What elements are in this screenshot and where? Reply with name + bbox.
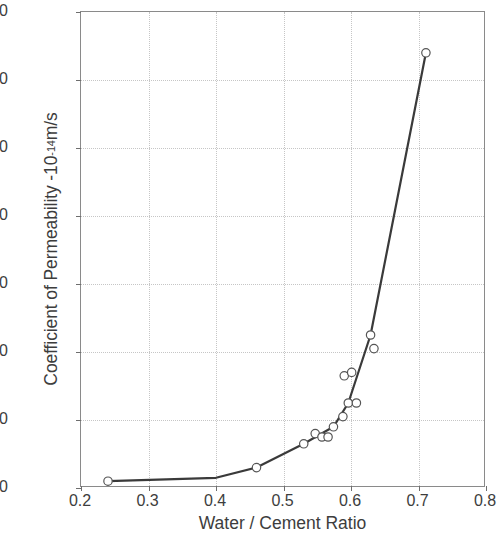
trend-line bbox=[108, 53, 426, 481]
x-tick-label: 0.4 bbox=[185, 492, 245, 510]
data-point bbox=[104, 477, 112, 485]
data-point bbox=[422, 49, 430, 57]
plot-area bbox=[80, 11, 485, 487]
permeability-vs-water-cement-ratio-chart: Coefficient of Permeability -10-14 m/s W… bbox=[0, 0, 497, 551]
x-tick-label: 0.3 bbox=[118, 492, 178, 510]
y-tick-label: 140 bbox=[0, 2, 8, 20]
data-point bbox=[366, 331, 374, 339]
x-tick-label: 0.5 bbox=[253, 492, 313, 510]
x-tick-label: 0.2 bbox=[50, 492, 110, 510]
y-axis-title-units: m/s bbox=[41, 112, 62, 140]
data-point bbox=[300, 440, 308, 448]
data-point bbox=[352, 399, 360, 407]
x-tick-label: 0.7 bbox=[388, 492, 448, 510]
y-tick-label: 60 bbox=[0, 274, 8, 292]
data-point bbox=[347, 368, 355, 376]
data-point bbox=[370, 344, 378, 352]
x-tick-label: 0.8 bbox=[455, 492, 497, 510]
data-series-layer bbox=[81, 12, 486, 488]
data-point bbox=[339, 412, 347, 420]
data-point bbox=[324, 433, 332, 441]
data-points bbox=[104, 49, 430, 486]
x-tick-mark bbox=[486, 486, 487, 491]
y-axis-title-text: Coefficient of Permeability -10 bbox=[41, 156, 62, 386]
y-tick-label: 100 bbox=[0, 138, 8, 156]
y-tick-mark bbox=[76, 488, 81, 489]
data-point bbox=[344, 399, 352, 407]
x-axis-title: Water / Cement Ratio bbox=[80, 513, 485, 534]
y-axis-title: Coefficient of Permeability -10-14 m/s bbox=[34, 11, 68, 487]
y-tick-label: 80 bbox=[0, 206, 8, 224]
y-tick-label: 40 bbox=[0, 342, 8, 360]
y-tick-label: 0 bbox=[0, 478, 8, 496]
y-tick-label: 20 bbox=[0, 410, 8, 428]
data-point bbox=[252, 463, 260, 471]
data-point bbox=[329, 423, 337, 431]
x-tick-label: 0.6 bbox=[320, 492, 380, 510]
y-tick-label: 120 bbox=[0, 70, 8, 88]
